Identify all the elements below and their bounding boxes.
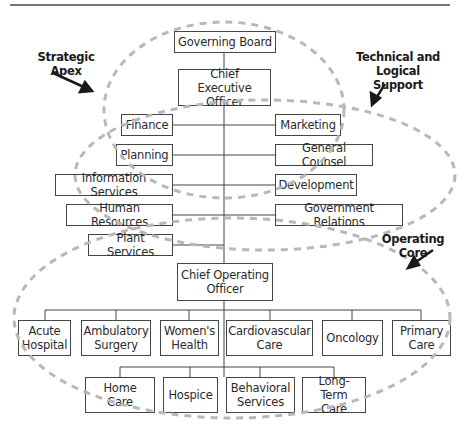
- development-box: Development: [275, 174, 357, 196]
- womens-health-box: Women's Health: [160, 320, 219, 356]
- ambulatory-surgery-box: Ambulatory Surgery: [81, 320, 151, 356]
- governing-board-box: Governing Board: [174, 31, 276, 53]
- government-relations-box: Government Relations: [275, 204, 403, 226]
- strategic-apex-label: Strategic Apex: [24, 50, 108, 78]
- finance-label: Finance: [126, 118, 169, 132]
- marketing-label: Marketing: [280, 118, 336, 132]
- coo-box: Chief Operating Officer: [177, 263, 273, 301]
- cardiovascular-care-box: Cardiovascular Care: [226, 320, 313, 356]
- hospice-label: Hospice: [168, 388, 212, 402]
- long-term-care-label: Long-Term Care: [306, 374, 362, 416]
- acute-hospital-label: Acute Hospital: [22, 324, 67, 352]
- operating-core-label: Operating Core: [370, 232, 456, 260]
- oncology-box: Oncology: [322, 320, 383, 356]
- coo-label: Chief Operating Officer: [181, 268, 269, 296]
- information-services-box: Information Services: [55, 174, 173, 196]
- hospice-box: Hospice: [163, 377, 218, 413]
- ceo-label: Chief Executive Officer: [182, 67, 267, 109]
- technical-support-label: Technical and Logical Support: [352, 50, 444, 92]
- home-care-label: Home Care: [89, 381, 151, 409]
- ambulatory-surgery-label: Ambulatory Surgery: [84, 324, 149, 352]
- governing-board-label: Governing Board: [178, 35, 272, 49]
- behavioral-services-box: Behavioral Services: [226, 377, 295, 413]
- primary-care-label: Primary Care: [400, 324, 443, 352]
- information-services-label: Information Services: [59, 171, 169, 199]
- government-relations-label: Government Relations: [279, 201, 399, 229]
- oncology-label: Oncology: [326, 331, 378, 345]
- marketing-box: Marketing: [275, 114, 341, 136]
- plant-services-label: Plant Services: [92, 231, 169, 259]
- planning-box: Planning: [116, 144, 173, 166]
- behavioral-services-label: Behavioral Services: [231, 381, 290, 409]
- human-resources-label: Human Resources: [70, 201, 169, 229]
- home-care-box: Home Care: [85, 377, 155, 413]
- cardiovascular-care-label: Cardiovascular Care: [228, 324, 311, 352]
- finance-box: Finance: [121, 114, 173, 136]
- acute-hospital-box: Acute Hospital: [18, 320, 71, 356]
- plant-services-box: Plant Services: [88, 234, 173, 256]
- human-resources-box: Human Resources: [66, 204, 173, 226]
- general-counsel-label: General Counsel: [279, 141, 369, 169]
- general-counsel-box: General Counsel: [275, 144, 373, 166]
- primary-care-box: Primary Care: [392, 320, 451, 356]
- development-label: Development: [278, 178, 353, 192]
- ceo-box: Chief Executive Officer: [178, 69, 271, 106]
- planning-label: Planning: [121, 148, 169, 162]
- long-term-care-box: Long-Term Care: [302, 377, 366, 413]
- womens-health-label: Women's Health: [164, 324, 215, 352]
